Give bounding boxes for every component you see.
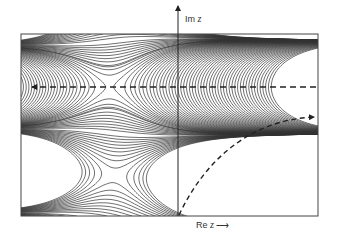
contour-line: [238, 43, 319, 131]
contour-line: [235, 43, 319, 132]
imag-axis-label: Im z: [185, 13, 201, 24]
real-axis-label: Re z ⟶: [196, 219, 229, 230]
contour-figure: [0, 0, 352, 240]
right-arrow-icon: ⟶: [216, 220, 229, 230]
contour-lines: [21, 34, 319, 216]
